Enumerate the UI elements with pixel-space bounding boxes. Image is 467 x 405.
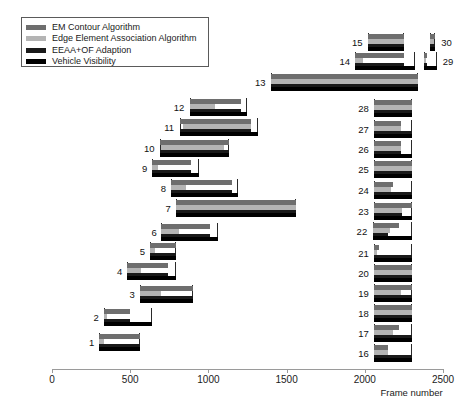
x-axis-label: Frame number <box>380 388 442 398</box>
bar-24-vehicle-visibility <box>374 195 412 199</box>
bar-16-vehicle-visibility <box>374 358 412 362</box>
bar-5-vehicle-visibility <box>150 256 176 260</box>
bar-3-vehicle-visibility <box>140 299 193 303</box>
bar-7-vehicle-visibility <box>176 213 296 217</box>
x-axis-line <box>52 369 443 370</box>
bar-10-vehicle-visibility <box>160 153 229 157</box>
x-tick-label: 1000 <box>197 375 219 385</box>
group-label-14: 14 <box>339 57 350 67</box>
group-label-11: 11 <box>164 123 174 133</box>
group-label-8: 8 <box>161 184 166 194</box>
bar-12-vehicle-visibility <box>190 112 248 116</box>
group-label-24: 24 <box>358 186 369 196</box>
bar-11-vehicle-visibility <box>180 132 258 136</box>
group-label-20: 20 <box>358 269 369 279</box>
x-tick-label: 0 <box>49 375 55 385</box>
x-tick-label: 500 <box>122 375 139 385</box>
bar-2-em-contour-algorithm <box>104 309 131 314</box>
x-tick-label: 2500 <box>432 375 454 385</box>
group-label-22: 22 <box>357 227 368 237</box>
bar-9-vehicle-visibility <box>152 173 199 177</box>
bar-1-vehicle-visibility <box>99 347 140 351</box>
bar-4-vehicle-visibility <box>127 276 175 280</box>
x-tick-label: 1500 <box>275 375 297 385</box>
x-tick <box>130 369 131 373</box>
group-label-30: 30 <box>441 38 452 48</box>
bar-27-vehicle-visibility <box>374 134 412 138</box>
group-label-25: 25 <box>358 165 369 175</box>
group-label-15: 15 <box>352 38 363 48</box>
bar-18-vehicle-visibility <box>374 318 412 322</box>
bar-25-vehicle-visibility <box>374 174 412 178</box>
bar-6-vehicle-visibility <box>161 237 217 241</box>
group-label-2: 2 <box>94 313 99 323</box>
group-label-13: 13 <box>255 78 266 88</box>
bar-19-vehicle-visibility <box>374 298 412 302</box>
bar-21-vehicle-visibility <box>374 258 412 262</box>
bar-29-vehicle-visibility <box>424 66 437 70</box>
bar-14-vehicle-visibility <box>355 66 414 70</box>
group-label-23: 23 <box>358 207 369 217</box>
group-label-16: 16 <box>358 349 369 359</box>
bar-1-em-contour-algorithm <box>99 334 140 339</box>
chart-root: EM Contour AlgorithmEdge Element Associa… <box>0 0 467 405</box>
group-label-21: 21 <box>358 249 369 259</box>
x-tick <box>365 369 366 373</box>
group-label-27: 27 <box>358 125 369 135</box>
group-label-9: 9 <box>142 164 147 174</box>
group-label-19: 19 <box>358 289 369 299</box>
x-tick <box>443 369 444 373</box>
x-tick <box>52 369 53 373</box>
bar-15-vehicle-visibility <box>368 47 404 51</box>
bar-20-vehicle-visibility <box>374 278 412 282</box>
bar-8-vehicle-visibility <box>171 193 238 197</box>
bar-23-vehicle-visibility <box>374 216 412 220</box>
bar-26-vehicle-visibility <box>374 154 412 158</box>
group-label-4: 4 <box>117 267 122 277</box>
group-label-29: 29 <box>443 57 454 67</box>
group-label-17: 17 <box>358 329 369 339</box>
group-label-28: 28 <box>358 104 369 114</box>
x-tick <box>208 369 209 373</box>
group-label-5: 5 <box>140 247 145 257</box>
bar-30-vehicle-visibility <box>430 47 435 51</box>
plot-area: 1234567891011121314151617181920212223242… <box>0 0 467 405</box>
x-tick-label: 2000 <box>354 375 376 385</box>
bar-22-vehicle-visibility <box>373 236 412 240</box>
x-tick <box>287 369 288 373</box>
group-label-10: 10 <box>144 144 155 154</box>
bar-2-vehicle-visibility <box>104 322 152 326</box>
bar-13-vehicle-visibility <box>271 87 418 91</box>
group-label-12: 12 <box>174 103 185 113</box>
bar-17-vehicle-visibility <box>374 338 412 342</box>
bar-28-vehicle-visibility <box>374 113 412 117</box>
group-label-18: 18 <box>358 309 369 319</box>
group-label-26: 26 <box>358 145 369 155</box>
group-label-6: 6 <box>151 228 156 238</box>
group-label-7: 7 <box>166 204 171 214</box>
group-label-3: 3 <box>130 290 135 300</box>
group-label-1: 1 <box>89 338 94 348</box>
